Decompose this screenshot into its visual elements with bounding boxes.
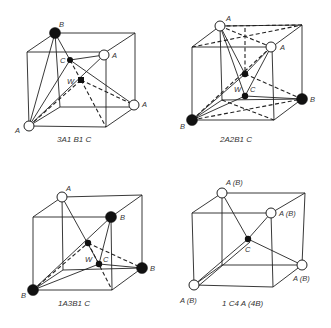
ab-atom [297, 260, 307, 270]
b-atom [187, 115, 198, 126]
a-atom [99, 50, 109, 60]
label-c: C [245, 245, 251, 254]
panel-caption: 2A2B1 C [219, 135, 252, 144]
c-site [245, 236, 251, 242]
w-site [242, 71, 248, 77]
label-b: B [120, 213, 125, 222]
b-atom [297, 94, 308, 105]
panel-1: B C W A A A 3A1 B1 C [14, 20, 147, 144]
label-b: B [59, 20, 64, 29]
b-atom [28, 285, 39, 296]
label-w: W [234, 85, 242, 94]
label-b: B [180, 122, 185, 131]
label-w: W [67, 77, 75, 86]
label-w: W [85, 255, 93, 264]
b-atom [137, 263, 148, 274]
a-atom [57, 192, 67, 202]
c-site [67, 57, 73, 63]
a-atom [129, 100, 139, 110]
a-atom [266, 42, 276, 52]
label-ab: A (B) [278, 209, 296, 218]
label-a: A [279, 43, 285, 52]
label-a: A [14, 126, 20, 135]
panel-caption: 3A1 B1 C [57, 135, 91, 144]
ab-atom [189, 280, 199, 290]
panel-3: A B W C B B 1A3B1 C [21, 184, 155, 308]
ab-atom [266, 208, 276, 218]
panel-caption: 1 C4 A (4B) [222, 299, 264, 308]
label-c: C [103, 255, 109, 264]
cluster-diagrams: B C W A A A 3A1 B1 C [0, 0, 331, 328]
label-a: A [225, 14, 231, 23]
c-site [96, 261, 102, 267]
panel-2: A A W C B B 2A2B1 C [180, 14, 315, 144]
b-atom [106, 212, 117, 223]
a-atom [24, 121, 34, 131]
label-c: C [250, 85, 256, 94]
a-atom [215, 21, 225, 31]
label-c: C [60, 56, 66, 65]
label-a: A [111, 51, 117, 60]
c-site [242, 93, 248, 99]
panel-4: A (B) A (B) C A (B) A (B) 1 C4 A (4B) [179, 178, 310, 308]
label-a: A [65, 184, 71, 193]
label-ab: A (B) [225, 178, 243, 187]
label-ab: A (B) [292, 274, 310, 283]
w-site [85, 240, 91, 246]
w-site [78, 77, 84, 83]
label-ab: A (B) [179, 296, 197, 305]
label-a: A [141, 100, 147, 109]
ab-atom [217, 188, 227, 198]
label-b: B [310, 95, 315, 104]
b-atom [50, 28, 61, 39]
panel-caption: 1A3B1 C [58, 299, 90, 308]
label-b: B [21, 291, 26, 300]
label-b: B [150, 264, 155, 273]
